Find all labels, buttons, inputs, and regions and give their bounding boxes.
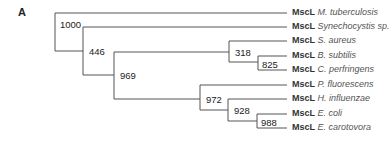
bootstrap-988: 988	[261, 118, 277, 128]
bootstrap-972: 972	[206, 95, 222, 105]
bootstrap-969: 969	[120, 71, 136, 81]
leaf-label: MscL E. coli	[292, 109, 342, 118]
bootstrap-root: 1000	[60, 20, 81, 30]
leaf-label: MscL H. influenzae	[292, 94, 370, 103]
leaf-label: MscL C. perfringens	[292, 65, 374, 74]
bootstrap-446: 446	[89, 47, 105, 57]
leaf-label: MscL M. tuberculosis	[292, 8, 378, 17]
leaf-label: MscL S. aureus	[292, 36, 356, 45]
leaf-label: MscL E. carotovora	[292, 123, 371, 132]
leaf-label: MscL Synechocystis sp.	[292, 22, 390, 31]
leaf-label: MscL P. fluorescens	[292, 80, 373, 89]
bootstrap-318: 318	[235, 48, 251, 58]
bootstrap-825: 825	[262, 60, 278, 70]
bootstrap-928: 928	[234, 106, 250, 116]
leaf-label: MscL B. subtilis	[292, 51, 356, 60]
